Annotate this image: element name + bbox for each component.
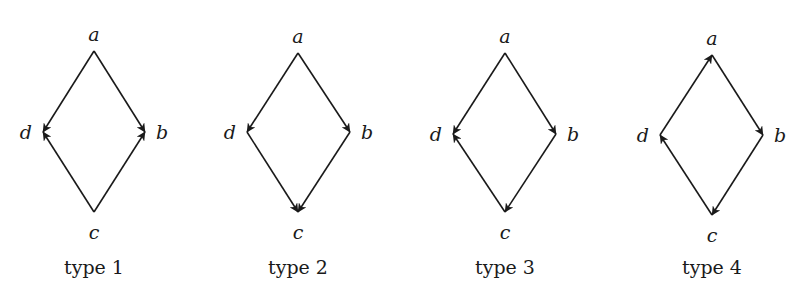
node-label-c: c xyxy=(293,221,304,243)
node-label-d: d xyxy=(637,124,649,146)
diagram-1: abcdtype 1 xyxy=(20,23,168,278)
node-label-b: b xyxy=(361,121,373,143)
node-label-a: a xyxy=(88,23,99,45)
edge-c-to-d xyxy=(453,134,505,212)
node-label-a: a xyxy=(292,25,303,47)
edge-a-to-b xyxy=(712,55,763,135)
node-label-c: c xyxy=(89,221,100,243)
edge-d-to-a xyxy=(660,55,712,135)
node-label-d: d xyxy=(430,123,442,145)
node-label-c: c xyxy=(707,224,718,246)
diagram-2: abcdtype 2 xyxy=(224,25,373,278)
diagram-3: abcdtype 3 xyxy=(430,25,579,278)
node-label-a: a xyxy=(499,25,510,47)
edge-a-to-d xyxy=(43,51,94,132)
node-label-d: d xyxy=(20,121,32,143)
edge-a-to-b xyxy=(298,53,350,132)
edge-a-to-d xyxy=(247,53,298,132)
diagram-caption: type 3 xyxy=(475,256,535,278)
diagram-caption: type 2 xyxy=(268,256,328,278)
node-label-d: d xyxy=(224,121,236,143)
edge-a-to-b xyxy=(94,51,145,132)
node-label-b: b xyxy=(156,121,168,143)
edge-a-to-b xyxy=(505,53,556,134)
node-label-b: b xyxy=(774,124,786,146)
edge-c-to-d xyxy=(660,135,712,215)
edge-c-to-d xyxy=(43,132,94,212)
diagram-caption: type 1 xyxy=(64,256,124,278)
edge-b-to-c xyxy=(712,135,763,215)
diagram-4: abcdtype 4 xyxy=(637,27,786,278)
diagram-canvas: abcdtype 1abcdtype 2abcdtype 3abcdtype 4 xyxy=(0,0,798,299)
diagram-caption: type 4 xyxy=(682,256,742,278)
edge-b-to-c xyxy=(505,134,556,212)
edge-c-to-b xyxy=(94,132,145,212)
node-label-c: c xyxy=(500,221,511,243)
edge-b-to-c xyxy=(298,132,350,212)
node-label-a: a xyxy=(706,27,717,49)
edge-a-to-d xyxy=(453,53,505,134)
diagrams-group: abcdtype 1abcdtype 2abcdtype 3abcdtype 4 xyxy=(20,23,786,278)
node-label-b: b xyxy=(567,123,579,145)
edge-d-to-c xyxy=(247,132,298,212)
